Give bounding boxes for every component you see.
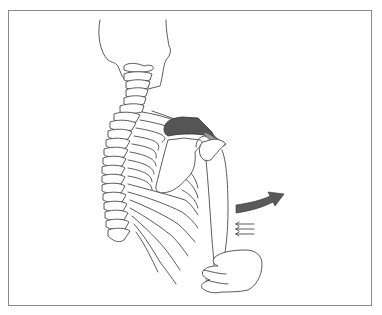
anatomy-illustration	[0, 0, 382, 315]
cervical-vertebrae	[120, 63, 153, 113]
curved-arrow-right	[236, 192, 284, 213]
humerus-arm	[196, 136, 228, 268]
hand	[201, 250, 262, 293]
small-arrows-left	[236, 222, 254, 236]
rib-cage	[128, 112, 198, 284]
